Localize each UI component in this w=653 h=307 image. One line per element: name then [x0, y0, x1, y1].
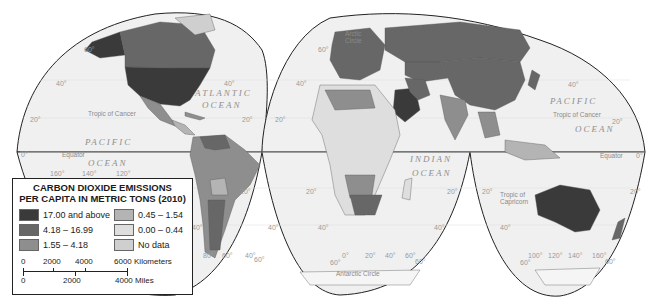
- lon-label: 60°: [222, 252, 233, 259]
- lat-label: 0°: [21, 151, 28, 158]
- legend-swatch: [19, 209, 39, 221]
- ocean-label-indian-2: OCEAN: [412, 168, 452, 178]
- lat-label: 60°: [605, 258, 616, 265]
- legend-label: 4.18 – 16.99: [43, 225, 93, 235]
- lat-label: 40°: [224, 80, 235, 87]
- lat-label: 60°: [330, 259, 341, 266]
- equator-east-label: Equator: [600, 152, 624, 160]
- lat-label: 20°: [240, 188, 251, 195]
- lat-label: 20°: [30, 116, 41, 123]
- lat-label: 40°: [568, 81, 579, 88]
- scale-km-label: 2000: [43, 257, 61, 266]
- legend-swatch: [114, 239, 134, 251]
- lon-label: 140°: [568, 252, 583, 259]
- lat-label: 20°: [275, 116, 286, 123]
- scale-bar: 0 2000 4000 6000 Kilometers 0 2000 4000 …: [19, 257, 186, 287]
- ocean-label-pacific-east: PACIFIC: [549, 96, 597, 106]
- equator-west-label: Equator: [62, 151, 86, 159]
- legend-title-line-1: CARBON DIOXIDE EMISSIONS: [19, 183, 186, 194]
- scale-mile-label: 0: [21, 276, 25, 285]
- lon-label: 140°: [82, 170, 97, 177]
- lon-label: 120°: [116, 170, 131, 177]
- legend-swatch: [114, 224, 134, 236]
- lon-label: 100°: [528, 252, 543, 259]
- legend-label: 0.00 – 0.44: [138, 225, 183, 235]
- scale-km-label: 0: [21, 257, 25, 266]
- lon-label: 160°: [50, 170, 65, 177]
- legend-label: 0.45 – 1.54: [138, 210, 183, 220]
- lon-label: 0°: [342, 252, 349, 259]
- lat-label: 60°: [415, 258, 426, 265]
- lon-label: 20°: [365, 252, 376, 259]
- lat-label: 60°: [318, 46, 329, 53]
- lon-label: 80°: [203, 252, 214, 259]
- lat-label: 20°: [242, 116, 253, 123]
- lon-label: 120°: [548, 252, 563, 259]
- scale-mile-label: 2000: [63, 276, 81, 285]
- lat-label: 20°: [482, 188, 493, 195]
- legend-items: 17.00 and above 0.45 – 1.54 4.18 – 16.99…: [19, 209, 186, 251]
- legend-item: 17.00 and above: [19, 209, 114, 221]
- ocean-label-pacific-west: PACIFIC: [84, 137, 132, 147]
- legend-swatch: [19, 224, 39, 236]
- ocean-label-atlantic-2: OCEAN: [202, 100, 242, 110]
- scale-tick: [53, 268, 54, 272]
- country-angola-region: [345, 175, 375, 198]
- tropic-cancer-west-label: Tropic of Cancer: [88, 110, 137, 118]
- lat-label: 40°: [56, 80, 67, 87]
- ocean-label-pacific-east-2: OCEAN: [575, 124, 615, 134]
- lat-label: 40°: [318, 224, 329, 231]
- country-bolivia: [210, 178, 228, 195]
- lat-label: 60°: [254, 256, 265, 263]
- lat-label: 40°: [192, 224, 203, 231]
- antarctic-circle-label: Antarctic Circle: [336, 270, 380, 277]
- legend-item: 1.55 – 4.18: [19, 239, 114, 251]
- arctic-circle-label: Arctic: [345, 30, 362, 37]
- map-legend: CARBON DIOXIDE EMISSIONS PER CAPITA IN M…: [12, 178, 193, 295]
- lat-label: 60°: [520, 259, 531, 266]
- lon-label: 160°: [592, 252, 607, 259]
- tropic-cancer-east-label: Tropic of Cancer: [553, 111, 602, 119]
- legend-item: 0.00 – 0.44: [114, 224, 189, 236]
- lat-label: 40°: [268, 224, 279, 231]
- country-russia: [385, 22, 530, 62]
- legend-swatch: [19, 239, 39, 251]
- arctic-circle-label-2: Circle: [345, 37, 362, 44]
- ocean-label-indian: INDIAN: [409, 154, 452, 164]
- legend-item: 0.45 – 1.54: [114, 209, 189, 221]
- lon-label: 60°: [405, 252, 416, 259]
- legend-item: 4.18 – 16.99: [19, 224, 114, 236]
- legend-label: No data: [138, 240, 170, 250]
- lat-label: 0°: [636, 152, 643, 159]
- legend-label: 1.55 – 4.18: [43, 240, 88, 250]
- lon-label: 40°: [385, 252, 396, 259]
- lat-label: 20°: [447, 188, 458, 195]
- lat-label: 40°: [434, 224, 445, 231]
- lat-label: 20°: [306, 188, 317, 195]
- legend-item: No data: [114, 239, 189, 251]
- legend-swatch: [114, 209, 134, 221]
- lat-label: 40°: [296, 80, 307, 87]
- scale-mile-label: 4000 Miles: [115, 276, 154, 285]
- lat-label: 20°: [612, 118, 623, 125]
- scale-km-label: 4000: [75, 257, 93, 266]
- legend-title-line-2: PER CAPITA IN METRIC TONS (2010): [19, 194, 186, 205]
- scale-km-label: 6000 Kilometers: [114, 257, 172, 266]
- ocean-label-pacific-west-2: OCEAN: [88, 158, 128, 168]
- lat-label: 60°: [84, 46, 95, 53]
- scale-tick: [85, 268, 86, 272]
- legend-label: 17.00 and above: [43, 210, 110, 220]
- legend-title: CARBON DIOXIDE EMISSIONS PER CAPITA IN M…: [19, 183, 186, 204]
- tropic-capricorn-label-2: Capricorn: [500, 198, 529, 206]
- region-antarctica-e: [535, 268, 600, 285]
- lon-label: 40°: [245, 252, 256, 259]
- ocean-label-atlantic: ATLANTIC: [194, 88, 252, 98]
- lat-label: 40°: [500, 224, 511, 231]
- lat-label: 20°: [630, 188, 641, 195]
